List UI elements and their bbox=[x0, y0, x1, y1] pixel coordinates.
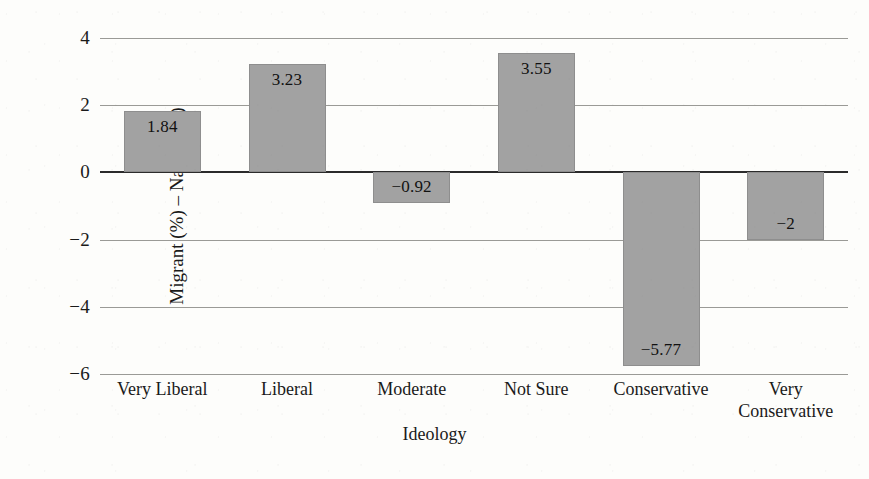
gridline bbox=[100, 38, 848, 39]
bar-value-label: −2 bbox=[776, 214, 795, 234]
zero-line bbox=[100, 171, 848, 173]
bar-value-label: 3.55 bbox=[521, 59, 552, 79]
bar-value-label: 1.84 bbox=[147, 117, 178, 137]
gridline bbox=[100, 105, 848, 106]
gridline bbox=[100, 307, 848, 308]
gridline bbox=[100, 374, 848, 375]
gridline bbox=[100, 240, 848, 241]
y-axis-tick-label: −6 bbox=[69, 363, 90, 385]
y-axis-tick-label: 0 bbox=[80, 161, 90, 183]
x-axis-tick-label: Very Liberal bbox=[117, 378, 207, 400]
bar-value-label: 3.23 bbox=[272, 70, 303, 90]
y-axis-title-wrapper: Migrant (%) – Native (%) bbox=[18, 38, 42, 374]
bar-chart-figure: Migrant (%) – Native (%) 420−2−4−6 1.843… bbox=[0, 0, 869, 479]
x-axis-tick-label: Moderate bbox=[377, 378, 446, 400]
x-axis-tick-label: Very Conservative bbox=[738, 378, 833, 422]
y-axis-tick-label: 2 bbox=[80, 94, 90, 116]
y-axis-tick-label: 4 bbox=[80, 27, 90, 49]
bar-value-label: −0.92 bbox=[391, 177, 431, 197]
x-axis-tick-label: Conservative bbox=[614, 378, 709, 400]
x-axis-tick-label: Liberal bbox=[261, 378, 313, 400]
x-axis-tick-label: Not Sure bbox=[504, 378, 569, 400]
x-axis-title: Ideology bbox=[0, 424, 869, 445]
y-axis-tick-label: −4 bbox=[69, 296, 90, 318]
bar[interactable] bbox=[623, 172, 700, 366]
plot-area: 420−2−4−6 1.843.23−0.923.55−5.77−2 bbox=[100, 38, 848, 374]
y-axis-tick-label: −2 bbox=[69, 229, 90, 251]
bar-value-label: −5.77 bbox=[641, 340, 681, 360]
